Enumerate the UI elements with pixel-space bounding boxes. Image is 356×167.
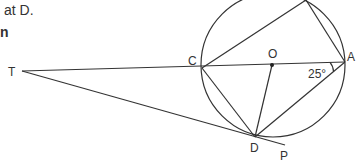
chord-BA	[306, 0, 345, 62]
label-P: P	[280, 149, 288, 163]
centre-point-O	[270, 63, 274, 67]
label-angle-25: 25°	[308, 67, 326, 81]
label-C: C	[188, 54, 197, 68]
tangent-TP	[22, 71, 285, 145]
label-O: O	[268, 47, 277, 61]
angle-arc-A	[330, 62, 334, 71]
label-T: T	[8, 65, 16, 79]
chord-CD	[202, 68, 255, 137]
radius-OD	[255, 65, 272, 137]
line-TA	[22, 62, 345, 71]
chord-CB	[202, 0, 306, 68]
geometry-diagram: T C O A D P 25°	[0, 0, 356, 167]
chord-AD	[255, 62, 345, 137]
label-D: D	[250, 141, 259, 155]
label-A: A	[347, 50, 355, 64]
